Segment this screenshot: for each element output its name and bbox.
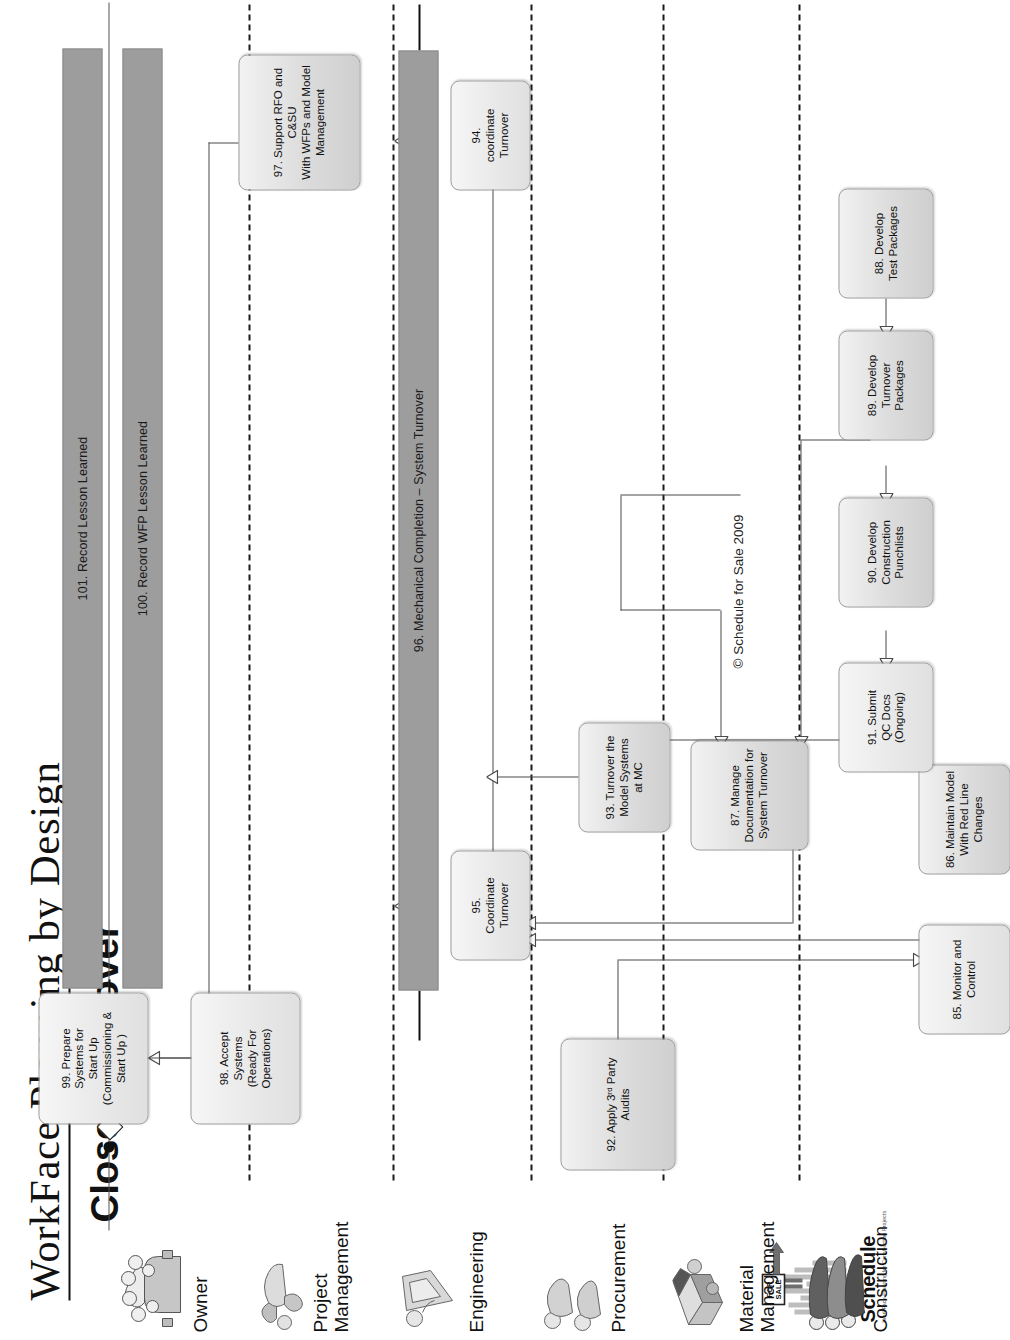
arrowhead-93-95 — [486, 769, 498, 784]
conn-90-87-h2 — [620, 495, 621, 610]
conn-89-87-h — [800, 440, 801, 740]
copyright-notice: © Schedule for Sale 2009 — [730, 514, 745, 668]
conn-96-tail — [418, 4, 420, 50]
person-document-icon — [400, 1236, 464, 1332]
two-people-icon — [540, 1236, 606, 1332]
people-group-icon — [118, 1236, 188, 1332]
bar-101[interactable]: 101. Record Lesson Learned — [62, 48, 102, 988]
conn-90-87-h1 — [720, 610, 721, 740]
conn-97-98-horiz — [208, 142, 209, 1022]
node-93-turnover-model-systems-at-mc[interactable]: 93. Turnover the Model Systems at MC — [578, 722, 670, 832]
node-92-apply-3rd-party-audits[interactable]: 92. Apply 3ʳᵈ Party Audits — [560, 1038, 675, 1170]
conn-90-87-v1 — [620, 609, 720, 610]
node-97-support-rfo-and-csu[interactable]: 97. Support RFO and C&SU With WFPs and M… — [238, 54, 360, 190]
lane-label-project: Project Management — [310, 1221, 351, 1332]
lane-header-engineering: Engineering — [400, 1182, 487, 1332]
conn-85-95 — [530, 939, 920, 940]
lane-header-material: Material Management — [672, 1182, 777, 1332]
conn-87-95-a — [530, 922, 792, 923]
lane-label-material: Material Management — [736, 1221, 777, 1332]
node-90-develop-construction-punchlists[interactable]: 90. Develop Construction Punchlists — [838, 497, 933, 607]
node-94-coordinate-turnover[interactable]: 94. coordinate Turnover — [450, 80, 530, 190]
conn-95-94 — [492, 160, 493, 870]
lane-header-construction: Construction — [808, 1182, 891, 1332]
lane-divider-project-engineering — [392, 4, 394, 1180]
bar-96[interactable]: 96. Mechanical Completion – System Turno… — [398, 50, 438, 990]
node-87-manage-documentation-for-system-turnover[interactable]: 87. Manage Documentation for System Turn… — [690, 740, 808, 850]
lane-header-procurement: Procurement — [540, 1182, 629, 1332]
conn-92-85-v — [617, 959, 917, 960]
lane-divider-procurement-material — [662, 4, 664, 1180]
node-99-prepare-systems-for-start-up[interactable]: 99. Prepare Systems for Start Up (Commis… — [38, 992, 148, 1124]
bar-100[interactable]: 100. Record WFP Lesson Learned — [122, 48, 162, 988]
node-88-develop-test-packages[interactable]: 88. Develop Test Packages — [838, 188, 933, 298]
node-86-maintain-model-with-red-line-changes[interactable]: 86. Maintain Model With Red Line Changes — [918, 764, 1010, 874]
node-91-submit-qc-docs[interactable]: 91. Submit QC Docs (Ongoing) — [838, 662, 933, 772]
lane-label-procurement: Procurement — [608, 1223, 629, 1332]
conn-92-85-h1 — [617, 960, 618, 1040]
lane-label-construction: Construction — [870, 1225, 891, 1332]
lane-label-engineering: Engineering — [466, 1231, 487, 1332]
person-pointing-icon — [258, 1236, 308, 1332]
node-85-monitor-and-control[interactable]: 85. Monitor and Control — [918, 924, 1010, 1034]
crew-group-icon — [808, 1222, 868, 1332]
lane-header-owner: Owner — [118, 1182, 211, 1332]
conn-96-head — [418, 990, 420, 1040]
node-95-coordinate-turnover[interactable]: 95. Coordinate Turnover — [450, 850, 530, 960]
node-98-accept-systems[interactable]: 98. Accept Systems (Ready For Operations… — [190, 992, 300, 1124]
node-89-develop-turnover-packages[interactable]: 89. Develop Turnover Packages — [838, 330, 933, 440]
conn-90-87-v2 — [620, 494, 740, 495]
truck-box-icon — [672, 1236, 734, 1332]
conn-93-95 — [492, 776, 578, 777]
lane-header-project: Project Management — [258, 1182, 351, 1332]
start-node-dot — [103, 1141, 114, 1152]
conn-97-98-vert — [208, 142, 238, 143]
lane-label-owner: Owner — [190, 1276, 211, 1332]
